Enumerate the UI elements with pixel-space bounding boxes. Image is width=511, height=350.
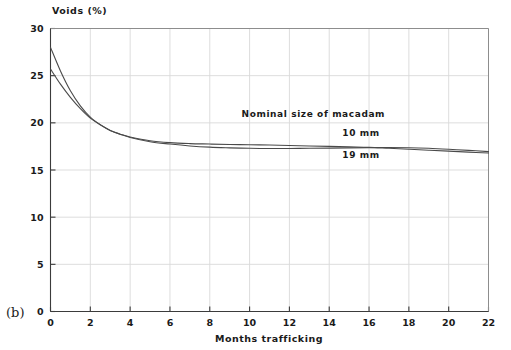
- series-label: 19 mm: [342, 150, 379, 160]
- x-tick-label: 16: [362, 317, 376, 328]
- x-tick-label: 6: [167, 317, 174, 328]
- data-curves: [51, 47, 489, 153]
- y-tick-label: 25: [30, 70, 43, 81]
- y-tick-label: 30: [30, 23, 44, 34]
- x-tick-label: 8: [206, 317, 213, 328]
- x-tick-label: 10: [243, 317, 257, 328]
- x-tick-label: 14: [323, 317, 337, 328]
- x-tick-label: 22: [482, 317, 495, 328]
- x-tick-label: 18: [402, 317, 416, 328]
- x-tick-label: 20: [442, 317, 456, 328]
- gridlines: [51, 29, 489, 312]
- x-tick-label: 12: [283, 317, 296, 328]
- y-tick-label: 15: [30, 165, 43, 176]
- y-axis-title: Voids (%): [52, 5, 107, 16]
- y-tick-label: 5: [37, 259, 44, 270]
- chart-annotations: Nominal size of macadam10 mm19 mm: [242, 109, 386, 160]
- x-tick-label: 4: [127, 317, 134, 328]
- legend-title: Nominal size of macadam: [242, 109, 386, 119]
- x-axis-title: Months trafficking: [215, 333, 323, 344]
- voids-vs-months-chart: 0246810121416182022051015202530 Nominal …: [0, 0, 511, 350]
- panel-label: (b): [6, 305, 24, 320]
- figure-panel-b: 0246810121416182022051015202530 Nominal …: [0, 0, 511, 350]
- x-tick-label: 0: [47, 317, 54, 328]
- tick-labels: 0246810121416182022051015202530: [30, 23, 495, 328]
- x-tick-label: 2: [87, 317, 94, 328]
- y-tick-label: 10: [30, 212, 44, 223]
- curve-10-mm: [51, 47, 489, 153]
- series-label: 10 mm: [342, 128, 379, 138]
- y-tick-label: 0: [37, 306, 44, 317]
- y-tick-label: 20: [30, 117, 44, 128]
